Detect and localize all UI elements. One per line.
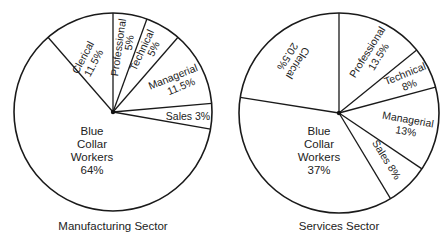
pie-hub xyxy=(337,111,341,115)
svg-text:Blue: Blue xyxy=(307,125,330,137)
chart-title-services: Services Sector xyxy=(299,220,380,232)
services-pie: Clerical 20.5% Professional 13.5% Techni… xyxy=(239,13,439,232)
svg-text:Workers: Workers xyxy=(298,151,341,163)
svg-text:Blue: Blue xyxy=(80,125,103,137)
svg-text:Workers: Workers xyxy=(71,151,114,163)
svg-text:5%: 5% xyxy=(122,34,136,51)
svg-text:Collar: Collar xyxy=(304,138,334,150)
pie-charts-figure: Clerical 11.5% Professional 5% Technical… xyxy=(0,0,446,237)
svg-text:37%: 37% xyxy=(307,164,330,176)
svg-text:Collar: Collar xyxy=(77,138,107,150)
pie-hub xyxy=(111,110,115,114)
chart-title-manufacturing: Manufacturing Sector xyxy=(58,220,167,232)
manufacturing-pie: Clerical 11.5% Professional 5% Technical… xyxy=(14,13,212,232)
svg-text:64%: 64% xyxy=(80,164,103,176)
slice-label-sales: Sales 3% xyxy=(166,110,210,122)
